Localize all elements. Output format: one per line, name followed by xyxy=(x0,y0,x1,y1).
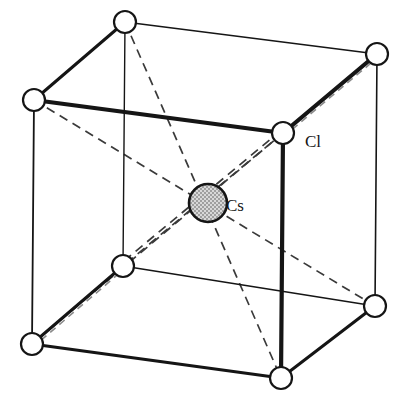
crystal-structure-figure: ClCs xyxy=(0,0,396,400)
unit-cell-svg: ClCs xyxy=(0,0,396,400)
atom-v-top-front-left xyxy=(23,89,45,111)
atom-v-bottom-front-left xyxy=(21,333,43,355)
ghost-top-right-back-edge xyxy=(283,58,377,137)
atom-v-top-back-left xyxy=(114,11,136,33)
edge-top-back xyxy=(125,22,377,54)
edge-top-front xyxy=(34,100,283,133)
edge-vert-front-right xyxy=(281,133,283,378)
atom-label-layer: ClCs xyxy=(226,132,321,215)
atom-v-top-front-right xyxy=(272,122,294,144)
atom-v-bottom-front-right xyxy=(270,367,292,389)
atom-center-cs xyxy=(189,184,227,222)
atom-v-top-back-right xyxy=(366,43,388,65)
edge-vert-back-right xyxy=(375,54,377,306)
edge-vert-back-left xyxy=(123,22,125,266)
edge-bottom-back xyxy=(123,266,375,306)
edge-bottom-front xyxy=(32,344,281,378)
edge-bottom-left-back xyxy=(32,266,123,344)
atom-v-bottom-back-right xyxy=(364,295,386,317)
edge-top-left-back xyxy=(34,22,125,100)
atom-v-bottom-back-left xyxy=(112,255,134,277)
edge-bottom-right-back xyxy=(281,306,375,378)
atom-layer xyxy=(21,11,388,389)
edge-top-right-back xyxy=(283,54,377,133)
label-cl: Cl xyxy=(305,132,321,151)
ghost-bottom-left-edge xyxy=(32,270,123,348)
label-cs: Cs xyxy=(226,196,244,215)
edge-vert-front-left xyxy=(32,100,34,344)
